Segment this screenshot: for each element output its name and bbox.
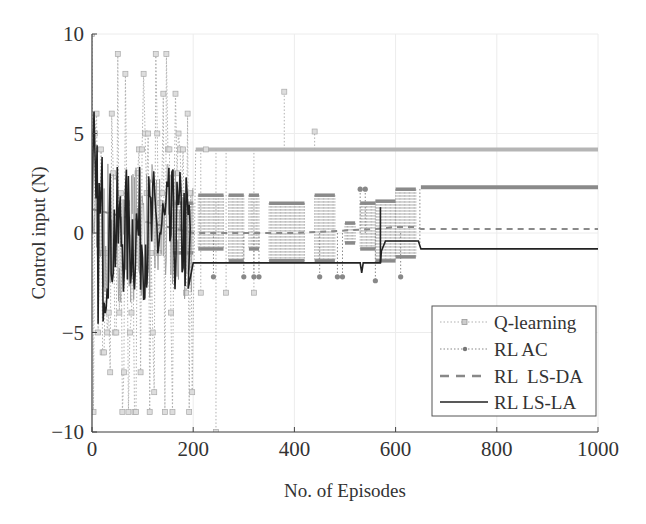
square-marker-icon [462, 320, 467, 325]
y-tick-label: −10 [51, 420, 84, 444]
x-tick-label: 0 [87, 437, 98, 461]
x-tick-labels: 02004006008001000 [87, 437, 619, 461]
legend-label: Q-learning [494, 312, 577, 333]
legend-label: RL AC [494, 339, 548, 360]
chart-figure: 02004006008001000 −10−50510 No. of Episo… [0, 0, 646, 524]
y-axis-label: Control input (N) [28, 167, 50, 300]
legend-label: RL LS-DA [494, 366, 583, 387]
y-tick-label: −5 [62, 321, 84, 345]
y-tick-label: 10 [63, 22, 84, 46]
y-tick-label: 5 [74, 122, 85, 146]
x-tick-label: 1000 [577, 437, 619, 461]
x-tick-label: 600 [380, 437, 412, 461]
x-tick-label: 400 [279, 437, 311, 461]
y-tick-labels: −10−50510 [51, 22, 84, 444]
x-tick-label: 800 [481, 437, 513, 461]
dot-marker-icon [463, 347, 467, 351]
legend-label: RL LS-LA [494, 392, 576, 413]
x-tick-label: 200 [177, 437, 209, 461]
legend: Q-learning RL AC RL LS-DA RL LS-LA [432, 306, 596, 416]
x-axis-label: No. of Episodes [284, 480, 406, 501]
y-tick-label: 0 [74, 221, 85, 245]
